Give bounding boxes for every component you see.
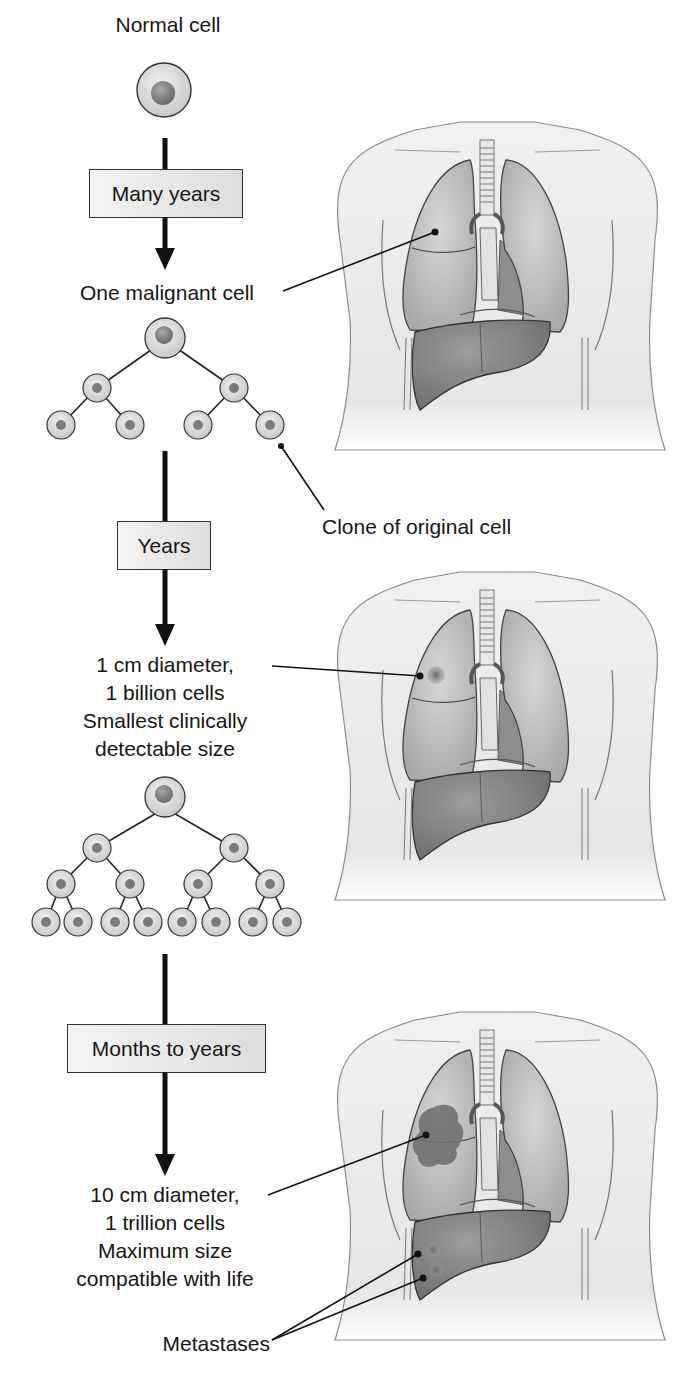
clone-cell-icon <box>64 908 92 936</box>
clone-cell-icon <box>184 411 212 439</box>
clone-tree-2 <box>46 808 287 922</box>
clone-cell-icon <box>256 411 284 439</box>
clone-cell-icon <box>168 908 196 936</box>
arrow-many-years <box>155 138 175 270</box>
clone-cell-icon <box>202 908 230 936</box>
clone-callout-line <box>278 443 324 510</box>
clone-cell-icon <box>116 870 144 898</box>
daughter-cell-icon <box>220 834 248 862</box>
malignant-cell-icon <box>145 318 185 358</box>
daughter-cell-icon <box>83 834 111 862</box>
clone-cell-icon <box>273 908 301 936</box>
clone-cell-icon <box>101 908 129 936</box>
clone-cell-icon <box>47 411 75 439</box>
normal-cell-icon <box>137 63 191 117</box>
torso-illustration-1 <box>335 122 665 450</box>
arrow-years <box>155 451 175 646</box>
clone-cell-icon <box>116 411 144 439</box>
clone-cell-icon <box>32 908 60 936</box>
clone-cell-icon <box>239 908 267 936</box>
daughter-cell-icon <box>220 374 248 402</box>
malignant-cell-icon <box>145 777 185 817</box>
clone-cell-icon <box>47 870 75 898</box>
torso-illustration-3 <box>335 1012 665 1340</box>
arrow-months-to-years <box>155 954 175 1176</box>
small-tumor-icon <box>427 666 445 684</box>
clone-cell-icon <box>134 908 162 936</box>
metastasis-icon <box>426 1243 440 1257</box>
torso-illustration-2 <box>335 572 665 900</box>
clone-cell-icon <box>256 870 284 898</box>
clone-cell-icon <box>184 870 212 898</box>
diagram-canvas <box>0 0 692 1387</box>
metastasis-icon <box>429 1263 443 1277</box>
daughter-cell-icon <box>83 374 111 402</box>
